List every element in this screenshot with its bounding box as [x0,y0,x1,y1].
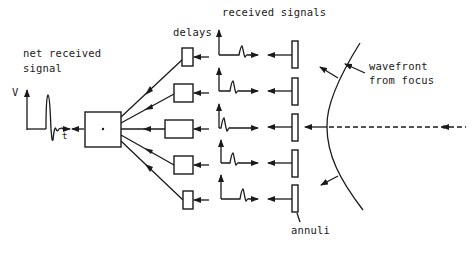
delay-box-2 [174,84,193,102]
v-axis-label: V [12,86,19,98]
t-axis-label: t [62,130,68,142]
annulus-3 [292,114,298,141]
diagram-graphics [0,0,476,259]
annuli-elements [292,41,300,222]
net-signal-plot [27,90,84,140]
wavefront-label: wavefront [369,60,428,72]
annulus-2 [292,78,298,105]
delay-box-3 [165,120,193,138]
received-signals-label: received signals [222,6,326,18]
net-received-signal-label: net received [23,47,101,59]
delay-box-4 [174,156,193,174]
annulus-1 [292,41,298,68]
diagram-canvas: net received signal V t delays received … [0,0,476,259]
signal-to-delay-arrows [194,57,209,200]
annulus-4 [292,150,298,177]
received-signal-plots [219,30,258,201]
delay-box-5 [183,191,193,209]
delay-box-1 [182,48,193,66]
annuli-label: annuli [291,224,330,236]
annulus-5 [292,185,298,212]
annulus-to-signal-arrows [268,55,292,199]
net-received-signal-label-2: signal [23,62,62,74]
delays-label: delays [173,26,212,38]
wavefront-label-2: from focus [369,74,434,86]
summer-dot [102,128,104,130]
